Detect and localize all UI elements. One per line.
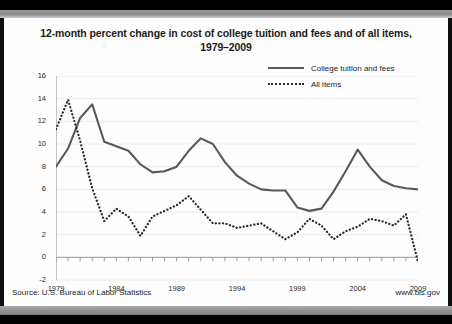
legend-label-allitems: All items: [311, 80, 341, 89]
chart-footer: Source: U.S. Bureau of Labor Statistics …: [4, 286, 448, 304]
y-tick-label: 6: [20, 184, 46, 193]
legend-item-tuition: College tuition and fees: [266, 60, 395, 76]
y-tick-label: 4: [20, 207, 46, 216]
chart-legend: College tuition and fees All items: [266, 60, 395, 92]
screenshot-frame: 12-month percent change in cost of colle…: [0, 0, 452, 324]
chart-card: 12-month percent change in cost of colle…: [4, 18, 448, 306]
series-line-all-items: [56, 100, 418, 262]
chart-title: 12-month percent change in cost of colle…: [30, 26, 422, 54]
y-tick-label: 0: [20, 252, 46, 261]
bottom-black-band: [0, 315, 452, 324]
y-tick-label: 8: [20, 162, 46, 171]
legend-item-allitems: All items: [266, 76, 395, 92]
right-edge-band: [448, 18, 452, 306]
legend-label-tuition: College tuition and fees: [311, 64, 395, 73]
plot-area: [56, 76, 418, 280]
y-tick-label: -2: [20, 275, 46, 284]
bls-url: www.bls.gov: [396, 288, 440, 297]
y-tick-label: 2: [20, 230, 46, 239]
top-grey-bar: [0, 10, 452, 18]
y-tick-label: 14: [20, 94, 46, 103]
y-tick-label: 10: [20, 139, 46, 148]
bottom-grey-bar: [0, 306, 452, 315]
chart-title-line2: 1979–2009: [30, 40, 422, 54]
legend-dotted-line-icon: [266, 79, 306, 89]
source-note: Source: U.S. Bureau of Labor Statistics: [12, 288, 151, 297]
series-line-tuition: [56, 104, 418, 211]
top-black-band: [0, 0, 452, 10]
chart-title-line1: 12-month percent change in cost of colle…: [30, 26, 422, 40]
y-tick-label: 16: [20, 71, 46, 80]
legend-solid-line-icon: [266, 63, 306, 73]
chart-svg: [56, 76, 418, 294]
y-tick-label: 12: [20, 116, 46, 125]
